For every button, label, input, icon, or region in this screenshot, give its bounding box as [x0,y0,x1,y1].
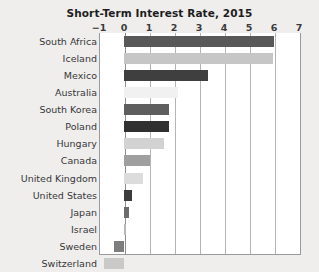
bar-row: Hungary [0,135,319,152]
x-tick-label-0: −1 [87,22,111,33]
bar-poland [124,121,169,132]
category-label-sweden: Sweden [59,238,97,255]
x-tick-label-5: 4 [212,22,236,33]
x-tick-label-1: 0 [112,22,136,33]
x-tick-label-7: 6 [262,22,286,33]
bar-row: Australia [0,84,319,101]
category-label-hungary: Hungary [56,135,97,152]
x-tick-label-4: 3 [187,22,211,33]
bar-hungary [124,138,164,149]
bar-row: Switzerland [0,255,319,272]
bar-united-states [124,190,132,201]
bar-south-korea [124,104,169,115]
category-label-australia: Australia [55,84,97,101]
bar-sweden [114,241,124,252]
bar-row: Canada [0,152,319,169]
bar-canada [124,155,150,166]
x-tick-label-6: 5 [237,22,261,33]
bar-mexico [124,70,208,81]
category-label-united-kingdom: United Kingdom [21,170,97,187]
category-label-poland: Poland [65,118,97,135]
x-tick-label-3: 2 [162,22,186,33]
bar-switzerland [104,258,124,269]
bar-iceland [124,53,273,64]
bar-row: South Korea [0,101,319,118]
bar-rows: South AfricaIcelandMexicoAustraliaSouth … [0,33,319,255]
bar-south-africa [124,36,274,47]
bar-row: Mexico [0,67,319,84]
bar-row: Japan [0,204,319,221]
bar-united-kingdom [124,173,143,184]
category-label-japan: Japan [71,204,98,221]
bar-row: Sweden [0,238,319,255]
category-label-canada: Canada [61,152,97,169]
category-label-mexico: Mexico [64,67,97,84]
bar-row: Poland [0,118,319,135]
bar-japan [124,207,129,218]
bar-row: United States [0,187,319,204]
x-tick-label-8: 7 [287,22,311,33]
bar-israel [124,224,126,235]
bar-row: United Kingdom [0,170,319,187]
axis-bottom-line [99,254,300,255]
bar-row: Israel [0,221,319,238]
category-label-switzerland: Switzerland [42,255,97,272]
x-tick-label-2: 1 [137,22,161,33]
category-label-iceland: Iceland [63,50,97,67]
category-label-south-africa: South Africa [39,33,97,50]
bar-row: South Africa [0,33,319,50]
category-label-israel: Israel [71,221,97,238]
bar-australia [124,87,178,98]
bar-row: Iceland [0,50,319,67]
chart-title: Short-Term Interest Rate, 2015 [0,7,319,19]
category-label-south-korea: South Korea [39,101,97,118]
category-label-united-states: United States [33,187,97,204]
